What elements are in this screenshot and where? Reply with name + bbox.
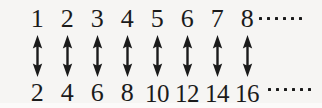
correspondence-arrow <box>112 34 142 78</box>
bottom-row-ellipsis <box>268 88 311 91</box>
bottom-number: 2 <box>31 80 44 106</box>
correspondence-arrow <box>202 34 232 78</box>
correspondence-arrow <box>52 34 82 78</box>
double-headed-vertical-arrow-icon <box>211 35 224 77</box>
top-row-ellipsis <box>259 17 302 20</box>
correspondence-arrow <box>142 34 172 78</box>
correspondence-arrow <box>22 34 52 78</box>
double-headed-vertical-arrow-icon <box>121 35 134 77</box>
ellipsis-dot <box>299 17 302 20</box>
ellipsis-dot <box>267 17 270 20</box>
top-number: 5 <box>151 6 164 32</box>
ellipsis-dot <box>283 17 286 20</box>
double-headed-vertical-arrow-icon <box>31 35 44 77</box>
ellipsis-dot <box>268 88 271 91</box>
correspondence-arrow <box>172 34 202 78</box>
double-headed-vertical-arrow-icon <box>91 35 104 77</box>
correspondence-arrow <box>82 34 112 78</box>
ellipsis-dot <box>292 88 295 91</box>
ellipsis-dot <box>284 88 287 91</box>
bottom-number: 4 <box>61 80 74 106</box>
double-headed-vertical-arrow-icon <box>151 35 164 77</box>
double-headed-vertical-arrow-icon <box>61 35 74 77</box>
bottom-number: 12 <box>175 81 199 106</box>
ellipsis-dot <box>259 17 262 20</box>
bottom-number: 6 <box>91 80 104 106</box>
bottom-number: 16 <box>235 81 259 106</box>
top-number: 4 <box>121 6 134 32</box>
ellipsis-dot <box>308 88 311 91</box>
bottom-number: 14 <box>205 81 229 106</box>
correspondence-arrow <box>232 34 262 78</box>
top-number: 3 <box>91 6 104 32</box>
bottom-number: 10 <box>145 81 169 106</box>
ellipsis-dot <box>291 17 294 20</box>
ellipsis-dot <box>275 17 278 20</box>
top-number: 2 <box>61 6 74 32</box>
bottom-number: 8 <box>121 80 134 106</box>
top-number: 1 <box>31 6 44 32</box>
double-headed-vertical-arrow-icon <box>241 35 254 77</box>
double-headed-vertical-arrow-icon <box>181 35 194 77</box>
correspondence-grid: 1 2 3 4 5 6 7 8 <box>22 4 262 108</box>
ellipsis-dot <box>276 88 279 91</box>
top-number: 8 <box>241 6 254 32</box>
top-number: 6 <box>181 6 194 32</box>
top-number: 7 <box>211 6 224 32</box>
ellipsis-dot <box>300 88 303 91</box>
bijection-figure: 1 2 3 4 5 6 7 8 <box>0 0 322 108</box>
